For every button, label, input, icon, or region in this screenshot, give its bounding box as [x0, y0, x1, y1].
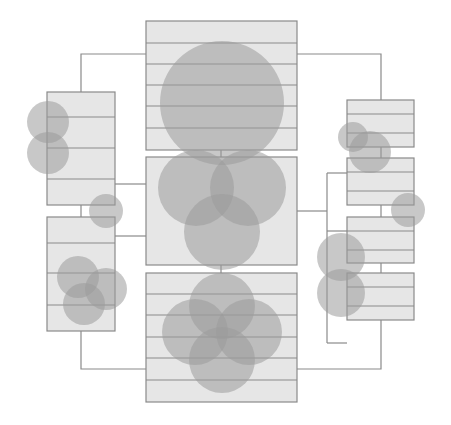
connector-line [297, 54, 381, 100]
circle-top-single [160, 41, 284, 165]
circle-right-pair [317, 269, 365, 317]
circle-center-triple [184, 194, 260, 270]
circle-left-triple [63, 283, 105, 325]
connector-line [81, 331, 146, 369]
circle-bottom-quad [189, 327, 255, 393]
circle-right-pair-diag [349, 131, 391, 173]
circle-left-pair [27, 132, 69, 174]
circle-right-single [391, 193, 425, 227]
circle-left-single [89, 194, 123, 228]
connector-line [81, 54, 146, 92]
connector-line [297, 320, 381, 369]
diagram-canvas [0, 0, 451, 425]
venn-network-diagram [0, 0, 451, 425]
